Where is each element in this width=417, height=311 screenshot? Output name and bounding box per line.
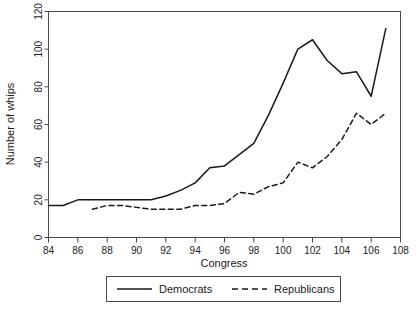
y-tick-label: 60	[33, 119, 44, 131]
x-tick-label: 92	[160, 245, 172, 256]
y-tick-label: 120	[33, 3, 44, 20]
legend-label-republicans: Republicans	[274, 283, 335, 295]
x-tick-label: 102	[304, 245, 321, 256]
x-tick-label: 104	[333, 245, 350, 256]
y-tick-label: 0	[33, 234, 44, 240]
x-tick-label: 108	[392, 245, 409, 256]
x-tick-label: 98	[248, 245, 260, 256]
y-tick-label: 100	[33, 40, 44, 57]
x-tick-label: 96	[219, 245, 231, 256]
x-tick-label: 106	[363, 245, 380, 256]
x-tick-label: 100	[275, 245, 292, 256]
y-tick-label: 20	[33, 194, 44, 206]
x-tick-label: 84	[43, 245, 55, 256]
x-tick-label: 90	[131, 245, 143, 256]
x-tick-label: 86	[72, 245, 84, 256]
legend-label-democrats: Democrats	[159, 283, 213, 295]
y-axis-title: Number of whips	[4, 82, 16, 165]
legend: Democrats Republicans	[107, 277, 341, 302]
x-axis-title: Congress	[200, 257, 248, 269]
x-tick-label: 88	[102, 245, 114, 256]
x-tick-label: 94	[190, 245, 202, 256]
y-tick-label: 80	[33, 81, 44, 93]
whips-line-chart: 020406080100120 848688909294969810010210…	[0, 0, 417, 311]
y-tick-label: 40	[33, 156, 44, 168]
